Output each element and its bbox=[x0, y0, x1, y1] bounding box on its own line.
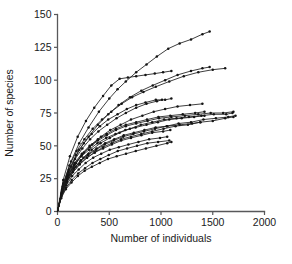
data-point bbox=[212, 68, 215, 71]
y-tick-label-125: 125 bbox=[34, 41, 52, 53]
data-point bbox=[133, 131, 136, 134]
series-line-site-16 bbox=[58, 137, 168, 212]
data-point bbox=[190, 70, 193, 73]
data-point bbox=[87, 152, 90, 155]
data-point bbox=[83, 142, 86, 145]
rarefaction-curve-figure: 02550751001251500500100015002000Number o… bbox=[0, 0, 292, 264]
data-point bbox=[232, 116, 235, 119]
data-point bbox=[148, 138, 151, 141]
y-axis-title: Number of species bbox=[3, 69, 15, 157]
data-point bbox=[101, 118, 104, 121]
data-point bbox=[120, 103, 123, 106]
series-site-17 bbox=[58, 139, 171, 211]
data-point bbox=[126, 108, 129, 111]
data-point bbox=[107, 118, 110, 121]
data-point bbox=[127, 76, 130, 79]
data-point bbox=[151, 131, 154, 134]
data-point bbox=[73, 167, 76, 170]
data-point bbox=[113, 138, 116, 141]
data-point bbox=[169, 114, 172, 117]
data-point bbox=[91, 128, 94, 131]
data-point bbox=[142, 91, 145, 94]
data-point bbox=[181, 113, 184, 116]
data-point bbox=[197, 71, 200, 74]
data-point bbox=[95, 147, 98, 150]
data-point bbox=[202, 118, 205, 121]
series-site-04 bbox=[58, 67, 227, 211]
data-point bbox=[77, 168, 80, 171]
data-point bbox=[116, 150, 119, 153]
data-point bbox=[115, 155, 118, 158]
data-point bbox=[114, 133, 117, 136]
data-point bbox=[86, 156, 89, 159]
data-point bbox=[109, 149, 112, 152]
data-point bbox=[122, 134, 125, 137]
data-point bbox=[99, 158, 102, 161]
data-point bbox=[105, 137, 108, 140]
series-line-site-09 bbox=[58, 113, 233, 212]
data-point bbox=[107, 154, 110, 157]
data-point bbox=[81, 152, 84, 155]
data-point bbox=[193, 116, 196, 119]
data-point bbox=[190, 38, 193, 41]
data-point bbox=[71, 175, 74, 178]
data-point bbox=[170, 141, 173, 144]
data-point bbox=[199, 121, 202, 124]
data-point bbox=[145, 124, 148, 127]
data-point bbox=[91, 166, 94, 169]
data-point bbox=[234, 114, 237, 117]
data-point bbox=[125, 80, 128, 83]
data-point bbox=[153, 110, 156, 113]
y-tick-label-50: 50 bbox=[40, 140, 52, 152]
data-point bbox=[166, 142, 169, 145]
data-point bbox=[75, 150, 78, 153]
data-point bbox=[178, 42, 181, 45]
data-point bbox=[119, 124, 122, 127]
data-point bbox=[84, 162, 87, 165]
data-point bbox=[168, 118, 171, 121]
x-tick-label-2000: 2000 bbox=[253, 216, 277, 228]
data-point bbox=[125, 124, 128, 127]
data-point bbox=[84, 167, 87, 170]
data-point bbox=[69, 155, 72, 158]
data-point bbox=[124, 129, 127, 132]
data-point bbox=[157, 121, 160, 124]
data-point bbox=[80, 155, 83, 158]
data-point bbox=[76, 135, 79, 138]
data-point bbox=[145, 103, 148, 106]
data-point bbox=[66, 180, 69, 183]
data-point bbox=[164, 79, 167, 82]
data-point bbox=[130, 137, 133, 140]
data-point bbox=[231, 112, 234, 115]
data-point bbox=[170, 70, 173, 73]
data-point bbox=[135, 71, 138, 74]
data-point bbox=[125, 112, 128, 115]
data-point bbox=[201, 103, 204, 106]
data-point bbox=[72, 171, 75, 174]
data-point bbox=[81, 147, 84, 150]
data-point bbox=[168, 139, 171, 142]
data-point bbox=[94, 151, 97, 154]
data-point bbox=[154, 72, 157, 75]
data-point bbox=[155, 145, 158, 148]
x-tick-label-500: 500 bbox=[100, 216, 118, 228]
data-point bbox=[110, 84, 113, 87]
series-site-12 bbox=[58, 114, 237, 211]
data-point bbox=[93, 107, 96, 110]
data-point bbox=[208, 30, 211, 33]
data-point bbox=[106, 124, 109, 127]
series-site-09 bbox=[58, 112, 234, 212]
data-point bbox=[155, 85, 158, 88]
series-line-site-08 bbox=[58, 112, 234, 212]
data-point bbox=[96, 142, 99, 145]
data-point bbox=[137, 141, 140, 144]
data-point bbox=[120, 139, 123, 142]
data-point bbox=[110, 110, 113, 113]
data-point bbox=[176, 74, 179, 77]
data-point bbox=[90, 133, 93, 136]
data-point bbox=[109, 129, 112, 132]
y-tick-label-150: 150 bbox=[34, 8, 52, 20]
data-point bbox=[135, 121, 138, 124]
data-point bbox=[98, 110, 101, 113]
data-point bbox=[130, 118, 133, 121]
